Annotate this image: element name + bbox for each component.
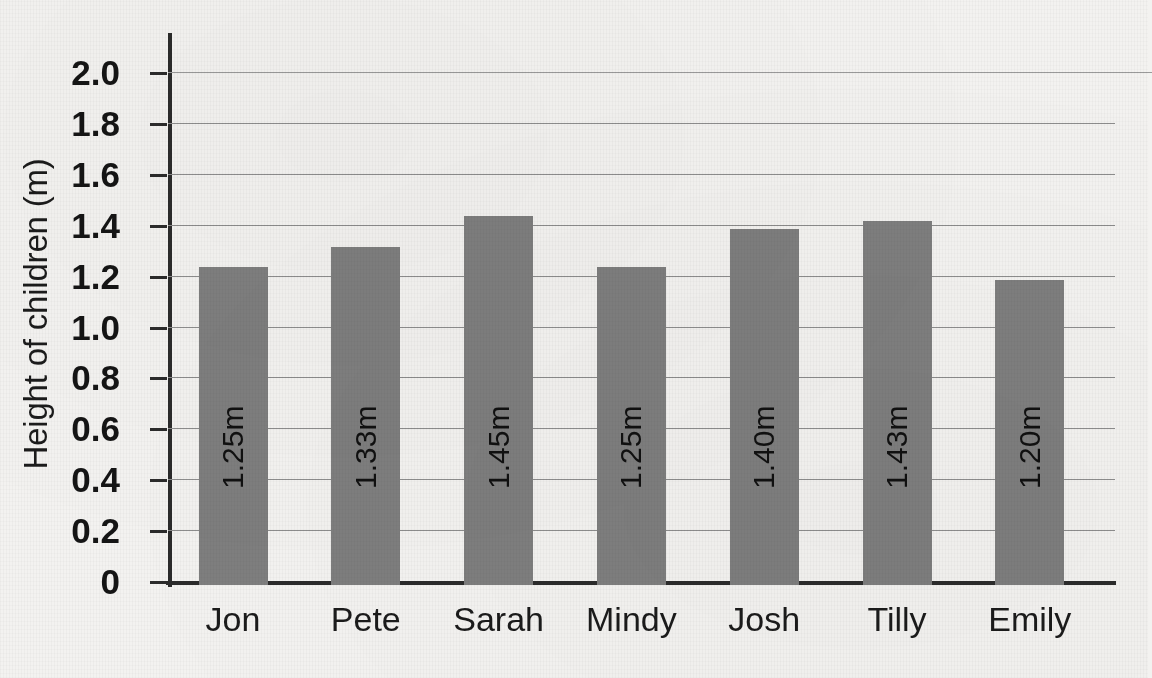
y-axis-tick-mark xyxy=(150,581,167,584)
x-axis-tick-label: Josh xyxy=(728,600,800,639)
gridline xyxy=(168,72,1152,73)
x-axis-tick-label: Emily xyxy=(988,600,1071,639)
y-axis-tick-mark xyxy=(150,530,167,533)
y-axis-tick-mark xyxy=(150,479,167,482)
y-axis-tick-mark xyxy=(150,225,167,228)
y-axis-tick-labels: 2.01.81.61.41.21.00.80.60.40.20 xyxy=(0,33,150,587)
y-axis-tick-mark xyxy=(150,276,167,279)
y-axis-tick-label: 1.6 xyxy=(71,157,120,192)
y-axis-tick-label: 1.2 xyxy=(71,259,120,294)
bar[interactable]: 1.45m xyxy=(464,216,533,585)
bar[interactable]: 1.20m xyxy=(995,280,1064,585)
x-axis-tick-label: Mindy xyxy=(586,600,677,639)
bar[interactable]: 1.25m xyxy=(199,267,268,585)
y-axis-tick-label: 1.0 xyxy=(71,310,120,345)
bar[interactable]: 1.40m xyxy=(730,229,799,585)
x-axis-tick-label: Tilly xyxy=(867,600,926,639)
x-axis-tick-labels: JonPeteSarahMindyJoshTillyEmily xyxy=(168,600,1115,650)
y-axis-tick-label: 0.8 xyxy=(71,360,120,395)
x-axis-tick-label: Pete xyxy=(331,600,401,639)
x-axis-tick-label: Sarah xyxy=(453,600,544,639)
y-axis-tick-mark xyxy=(150,123,167,126)
y-axis-tick-mark xyxy=(150,72,167,75)
gridline xyxy=(168,225,1115,226)
y-axis-tick-mark xyxy=(150,377,167,380)
y-axis-tick-label: 0.2 xyxy=(71,513,120,548)
gridline xyxy=(168,174,1115,175)
y-axis-tick-label: 0 xyxy=(101,564,120,599)
y-axis-tick-label: 2.0 xyxy=(71,55,120,90)
y-axis-tick-label: 1.4 xyxy=(71,208,120,243)
bar[interactable]: 1.25m xyxy=(597,267,666,585)
y-axis-tick-label: 0.4 xyxy=(71,462,120,497)
x-axis-tick-label: Jon xyxy=(206,600,261,639)
y-axis-tick-label: 0.6 xyxy=(71,411,120,446)
gridline xyxy=(168,123,1115,124)
y-axis-tick-mark xyxy=(150,428,167,431)
plot-area: 1.25m1.33m1.45m1.25m1.40m1.43m1.20m xyxy=(168,33,1115,583)
bar[interactable]: 1.43m xyxy=(863,221,932,585)
y-axis-tick-label: 1.8 xyxy=(71,106,120,141)
bar[interactable]: 1.33m xyxy=(331,247,400,585)
y-axis-tick-mark xyxy=(150,174,167,177)
y-axis-tick-mark xyxy=(150,327,167,330)
